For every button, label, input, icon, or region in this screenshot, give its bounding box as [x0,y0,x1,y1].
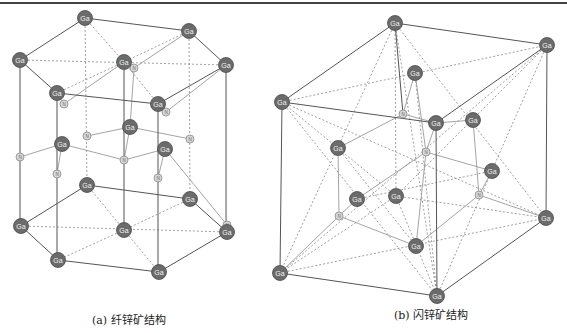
light-bond [479,195,546,218]
solid-bond [436,123,437,296]
svg-text:Ga: Ga [431,120,440,127]
ga-atom: Ga [331,141,346,156]
svg-text:Ga: Ga [160,146,169,153]
n-atom: N [60,100,68,108]
svg-text:Ga: Ga [185,196,194,203]
light-bond [134,31,189,68]
n-atom: N [335,212,343,220]
svg-text:N: N [18,155,21,160]
svg-text:Ga: Ga [333,145,342,152]
panel-wurtzite: NNNNNNNNNNGaGaGaGaGaGaGaGaGaGaGaGaGaGaGa… [13,11,235,280]
light-bond [473,120,479,195]
ga-atom: Ga [466,113,481,128]
ga-atom: Ga [55,137,70,152]
svg-text:N: N [132,66,135,71]
caption-wurtzite: (a) 纤锌矿结构 [92,311,166,327]
svg-text:N: N [424,150,427,155]
svg-text:Ga: Ga [15,57,24,64]
solid-bond [280,273,437,296]
dashed-bond [124,230,159,272]
solid-bond [58,260,159,272]
dashed-bond [57,62,124,93]
light-bond [62,144,124,160]
n-atom: N [154,174,162,182]
ga-atom: Ga [50,86,65,101]
svg-text:Ga: Ga [411,243,420,250]
solid-bond [280,102,282,273]
light-bond [416,195,479,246]
svg-text:Ga: Ga [119,227,128,234]
ga-atom: Ga [80,178,95,193]
ga-atom: Ga [275,95,290,110]
ga-atom: Ga [13,53,28,68]
svg-text:Ga: Ga [390,20,399,27]
ga-atom: Ga [117,223,132,238]
dashed-bond [189,31,190,199]
light-bond [415,73,426,152]
light-bond [64,62,124,104]
svg-text:N: N [401,112,404,117]
svg-text:Ga: Ga [53,257,62,264]
light-bond [280,216,339,273]
dashed-bond [58,230,124,260]
ga-atom: Ga [539,211,554,226]
svg-text:Ga: Ga [277,99,286,106]
svg-text:N: N [477,193,480,198]
n-atom: N [16,153,24,161]
dashed-bond [396,196,546,218]
solid-bond [395,23,403,114]
ga-atom: Ga [409,239,424,254]
svg-text:N: N [156,176,159,181]
dashed-bond [85,18,87,185]
ga-atom: Ga [182,24,197,39]
dashed-bond [415,73,437,296]
svg-text:Ga: Ga [487,168,496,175]
ga-atom: Ga [14,219,29,234]
svg-text:Ga: Ga [541,215,550,222]
ga-atom: Ga [220,225,235,240]
n-atom: N [475,191,483,199]
svg-text:N: N [55,172,58,177]
svg-text:Ga: Ga [119,59,128,66]
svg-text:Ga: Ga [52,90,61,97]
svg-text:Ga: Ga [222,229,231,236]
ga-atom: Ga [219,58,234,73]
dashed-bond [124,31,189,62]
light-bond [338,114,403,148]
svg-text:Ga: Ga [153,101,162,108]
caption-zinc-blende: (b) 闪锌矿结构 [394,306,468,322]
solid-bond [437,218,546,296]
n-atom: N [83,132,91,140]
solid-bond [395,23,547,45]
dashed-bond [124,199,190,230]
solid-bond [20,18,85,60]
svg-text:Ga: Ga [468,117,477,124]
n-atom: N [186,135,194,143]
svg-text:Ga: Ga [221,62,230,69]
ga-atom: Ga [78,11,93,26]
solid-bond [546,45,547,218]
svg-text:Ga: Ga [154,269,163,276]
light-bond [130,68,134,127]
solid-bond [21,185,87,226]
dashed-bond [85,18,124,62]
light-bond [166,65,226,112]
svg-text:Ga: Ga [184,28,193,35]
svg-text:Ga: Ga [16,223,25,230]
ga-atom: Ga [117,55,132,70]
ga-atom: Ga [152,265,167,280]
panel-zinc-blende: NNNNGaGaGaGaGaGaGaGaGaGaGaGaGaGa [273,16,555,304]
solid-bond [85,18,189,31]
ga-atom: Ga [158,142,173,157]
solid-bond [158,65,226,104]
ga-atom: Ga [388,16,403,31]
light-bond [339,216,416,246]
n-atom: N [120,156,128,164]
ga-atom: Ga [408,66,423,81]
dashed-bond [395,23,437,296]
svg-text:Ga: Ga [432,293,441,300]
ga-atom: Ga [429,116,444,131]
light-bond [338,148,339,216]
ga-atom: Ga [151,97,166,112]
light-bond [130,127,190,139]
